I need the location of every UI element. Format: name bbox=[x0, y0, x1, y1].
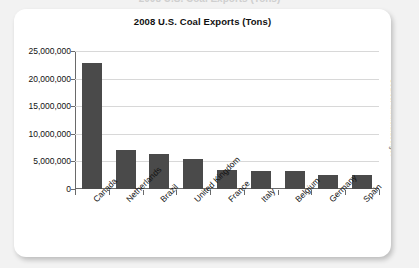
bar-slot bbox=[345, 51, 379, 189]
x-axis-labels: CanadaNetherlandsBrazilUnited KingdomFra… bbox=[75, 197, 391, 257]
bar[interactable] bbox=[82, 63, 102, 189]
bar-slot bbox=[278, 51, 312, 189]
y-axis-tick-label: 25,000,000 bbox=[15, 46, 71, 56]
bar-slot bbox=[311, 51, 345, 189]
bar[interactable] bbox=[285, 171, 305, 189]
x-axis-tick-mark bbox=[278, 190, 279, 195]
y-axis-tick-label: 5,000,000 bbox=[15, 156, 71, 166]
x-axis-tick-mark bbox=[75, 190, 76, 195]
y-axis-labels: 25,000,00020,000,00015,000,00010,000,000… bbox=[14, 9, 71, 257]
clipped-header-text: 2008 U.S. Coal Exports (Tons) bbox=[0, 0, 419, 5]
y-axis-tick-label: 20,000,000 bbox=[15, 74, 71, 84]
chart-card: 2008 U.S. Coal Exports (Tons) 25,000,000… bbox=[14, 9, 391, 257]
bar-slot bbox=[176, 51, 210, 189]
y-axis-tick-label: 10,000,000 bbox=[15, 129, 71, 139]
bar-slot bbox=[75, 51, 109, 189]
source-credit: Source: www.eia.doe.gov bbox=[390, 79, 391, 157]
y-axis-tick-label: 15,000,000 bbox=[15, 101, 71, 111]
y-axis-tick-label: 0 bbox=[15, 184, 71, 194]
bar[interactable] bbox=[183, 159, 203, 189]
bar-slot bbox=[109, 51, 143, 189]
bar-slot bbox=[244, 51, 278, 189]
